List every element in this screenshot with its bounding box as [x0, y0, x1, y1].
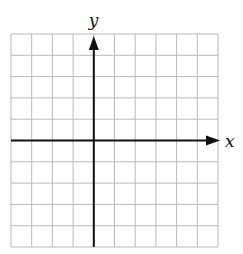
- y-axis-arrowhead-icon: [89, 36, 99, 50]
- x-axis-label: x: [225, 131, 235, 151]
- coordinate-grid: x y: [0, 0, 243, 254]
- y-axis-label: y: [88, 10, 99, 30]
